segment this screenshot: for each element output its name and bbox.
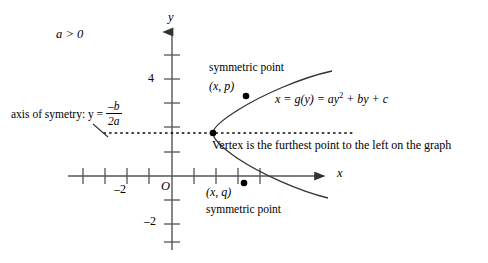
- axis-of-symmetry-fraction: –b 2a: [106, 100, 122, 127]
- vertex-note: Vertex is the furthest point to the left…: [212, 139, 451, 151]
- x-axis-label: x: [337, 167, 343, 180]
- symmetric-point-bottom-label: symmetric point: [206, 204, 281, 216]
- symmetric-point-top-label: symmetric point: [209, 62, 284, 74]
- origin-label: O: [161, 180, 170, 193]
- fraction-numerator: –b: [106, 100, 122, 112]
- x-tick-label-neg2: –2: [114, 183, 126, 195]
- y-axis-label: y: [168, 11, 174, 24]
- y-tick-label-neg2: –2: [144, 215, 156, 227]
- condition-a-positive: a > 0: [56, 28, 83, 41]
- axis-of-symmetry-annotation: axis of symetry: y = –b 2a: [11, 101, 122, 128]
- equation-exponent: 2: [339, 91, 343, 100]
- symmetric-point-bottom: [241, 180, 248, 187]
- fraction-denominator: 2a: [106, 115, 122, 127]
- parabola-equation: x = g(y) = ay2+ by + c: [275, 92, 388, 105]
- fraction-bar: [106, 113, 122, 114]
- equation-left-side: x = g(y) = ay: [275, 92, 339, 106]
- symmetric-point-top: [243, 93, 250, 100]
- y-tick-label-4: 4: [148, 72, 154, 84]
- parabola-figure: a > 0 y x 4 –2 –2 O axis of symetry: y =…: [0, 0, 488, 263]
- axis-of-symmetry-text: axis of symetry: y =: [11, 109, 103, 121]
- vertex-point: [210, 130, 217, 137]
- symmetric-point-top-coordinate: (x, p): [209, 80, 234, 92]
- symmetric-point-bottom-coordinate: (x, q): [206, 186, 231, 198]
- equation-right-side: + by + c: [346, 92, 388, 106]
